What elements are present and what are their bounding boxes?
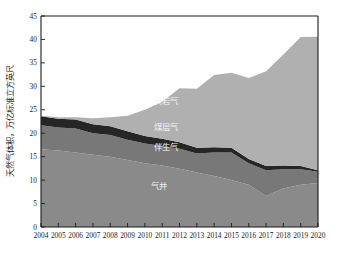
x-tick-label: 2007	[86, 231, 101, 240]
y-tick-label: 40	[30, 35, 38, 44]
x-tick-label: 2006	[68, 231, 83, 240]
x-tick-label: 2012	[172, 231, 187, 240]
x-tick-label: 2016	[241, 231, 256, 240]
x-tick-label: 2008	[103, 231, 118, 240]
figure-container: 051015202530354045 200420052006200720082…	[0, 0, 338, 258]
x-tick-label: 2011	[155, 231, 170, 240]
y-tick-label: 15	[30, 152, 38, 161]
x-tick-label: 2009	[120, 231, 135, 240]
x-tick-label: 2015	[224, 231, 239, 240]
series-label-伴生气: 伴生气	[154, 142, 179, 152]
x-tick-label: 2018	[276, 231, 291, 240]
x-tick-label: 2005	[51, 231, 66, 240]
stacked-area-chart: 051015202530354045 200420052006200720082…	[0, 0, 338, 258]
y-axis-title: 天然气体积，万亿标准立方英尺	[5, 65, 15, 177]
x-tick-label: 2013	[189, 231, 204, 240]
x-tick-label: 2004	[34, 231, 49, 240]
y-tick-label: 35	[30, 58, 38, 67]
x-tick-label: 2017	[259, 231, 274, 240]
series-label-页岩气: 页岩气	[154, 96, 179, 106]
y-tick-label: 5	[33, 199, 37, 208]
x-tick-label: 2014	[207, 231, 222, 240]
series-label-煤层气: 煤层气	[154, 122, 179, 132]
series-label-气井: 气井	[151, 181, 167, 191]
y-tick-label: 20	[30, 129, 38, 138]
y-tick-label: 10	[30, 176, 38, 185]
y-tick-label: 30	[30, 82, 38, 91]
y-tick-label: 45	[30, 12, 38, 21]
x-tick-label: 2020	[311, 231, 326, 240]
y-tick-label: 25	[30, 105, 38, 114]
x-tick-label: 2019	[293, 231, 308, 240]
x-tick-label: 2010	[137, 231, 152, 240]
